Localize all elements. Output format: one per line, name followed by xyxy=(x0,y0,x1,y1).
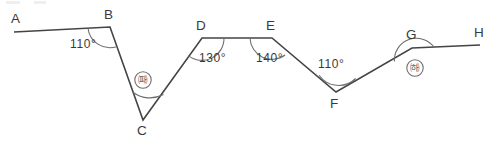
angle-label-d: 130° xyxy=(199,52,226,64)
vertex-label-f: F xyxy=(330,97,339,111)
vertex-label-a: A xyxy=(11,12,20,26)
vertex-label-c: C xyxy=(137,124,147,138)
angle-label-b: 110° xyxy=(70,38,96,50)
angle-label-e: 140° xyxy=(256,52,283,64)
geometry-figure: A B C D E F G H 110° ㈚ 130° 140° 110° ㈛ xyxy=(0,0,494,143)
vertex-label-e: E xyxy=(266,19,275,33)
vertex-label-h: H xyxy=(474,26,484,40)
vertex-label-d: D xyxy=(196,19,206,33)
angle-marker-label-g: ㈛ xyxy=(410,63,420,73)
vertex-label-b: B xyxy=(104,8,113,22)
angle-marker-label-c: ㈚ xyxy=(138,75,148,85)
angle-label-f: 110° xyxy=(318,58,344,70)
angle-arc-c xyxy=(133,93,163,98)
vertex-label-g: G xyxy=(406,28,417,42)
